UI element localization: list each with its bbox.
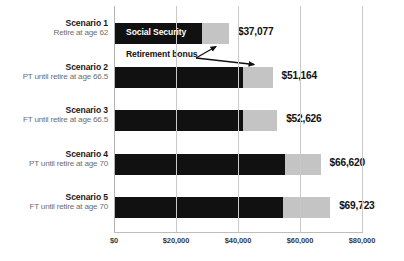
category-label-title: Scenario 1 bbox=[0, 19, 108, 28]
bar-segment-retirement-bonus bbox=[243, 110, 277, 131]
x-tick-label-60000: $60,000 bbox=[287, 236, 313, 245]
chart-row: Scenario 3FT until retire at age 66.5$52… bbox=[0, 110, 404, 131]
retirement-scenarios-chart: $0$20,000$40,000$60,000$80,000 Scenario … bbox=[0, 0, 404, 261]
category-label-title: Scenario 2 bbox=[0, 63, 108, 72]
chart-row: Scenario 4PT until retire at age 70$66,6… bbox=[0, 154, 404, 175]
x-axis-baseline bbox=[114, 232, 363, 233]
gridline-20000 bbox=[176, 6, 177, 232]
category-label-sublabel: FT until retire at age 66.5 bbox=[0, 116, 108, 124]
x-tick-label-80000: $80,000 bbox=[349, 236, 375, 245]
chart-row: Scenario 1Retire at age 62$37,077 bbox=[0, 23, 404, 44]
chart-row: Scenario 5FT until retire at age 70$69,7… bbox=[0, 197, 404, 218]
bar-segment-social-security bbox=[114, 110, 243, 131]
stacked-bar bbox=[114, 197, 330, 218]
category-label-sublabel: PT until retire at age 70 bbox=[0, 160, 108, 168]
bar-total-value-label: $37,077 bbox=[238, 26, 273, 37]
bar-segment-social-security bbox=[114, 67, 243, 88]
bar-segment-social-security bbox=[114, 154, 285, 175]
category-label-group: Scenario 2PT until retire at age 66.5 bbox=[0, 63, 108, 82]
category-label-title: Scenario 5 bbox=[0, 193, 108, 202]
gridline-40000 bbox=[238, 6, 239, 232]
gridline-0 bbox=[114, 6, 115, 232]
bar-segment-social-security bbox=[114, 197, 283, 218]
x-tick-label-20000: $20,000 bbox=[163, 236, 189, 245]
category-label-sublabel: PT until retire at age 66.5 bbox=[0, 73, 108, 81]
bar-total-value-label: $52,626 bbox=[286, 113, 321, 124]
stacked-bar bbox=[114, 110, 277, 131]
x-tick-label-40000: $40,000 bbox=[225, 236, 251, 245]
category-label-title: Scenario 3 bbox=[0, 106, 108, 115]
stacked-bar bbox=[114, 154, 321, 175]
category-label-group: Scenario 4PT until retire at age 70 bbox=[0, 150, 108, 169]
bar-segment-retirement-bonus bbox=[285, 154, 321, 175]
category-label-group: Scenario 3FT until retire at age 66.5 bbox=[0, 106, 108, 125]
bar-segment-retirement-bonus bbox=[202, 23, 229, 44]
gridline-60000 bbox=[300, 6, 301, 232]
bar-segment-retirement-bonus bbox=[243, 67, 273, 88]
social-security-series-label: Social Security bbox=[126, 27, 186, 37]
category-label-group: Scenario 1Retire at age 62 bbox=[0, 19, 108, 38]
gridline-80000 bbox=[362, 6, 363, 232]
bar-total-value-label: $69,723 bbox=[339, 200, 374, 211]
x-tick-label-0: $0 bbox=[110, 236, 118, 245]
bar-total-value-label: $66,620 bbox=[330, 157, 365, 168]
chart-row: Scenario 2PT until retire at age 66.5$51… bbox=[0, 67, 404, 88]
category-label-title: Scenario 4 bbox=[0, 150, 108, 159]
retirement-bonus-annotation-label: Retirement bonus bbox=[126, 49, 197, 59]
category-label-group: Scenario 5FT until retire at age 70 bbox=[0, 193, 108, 212]
stacked-bar bbox=[114, 67, 273, 88]
category-label-sublabel: FT until retire at age 70 bbox=[0, 203, 108, 211]
category-label-sublabel: Retire at age 62 bbox=[0, 29, 108, 37]
bar-segment-retirement-bonus bbox=[283, 197, 330, 218]
